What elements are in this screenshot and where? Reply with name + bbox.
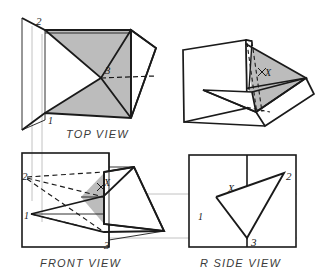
r-side-view-caption: R SIDE VIEW — [200, 257, 281, 269]
front-view-point-label-x: X — [103, 177, 111, 188]
front-view-point-label-3: 3 — [103, 239, 110, 251]
front-view-point-label-2: 2 — [22, 170, 28, 182]
r-side-view-point-label-x: X — [227, 183, 235, 194]
r-side-view: X 2 1 3 R SIDE VIEW — [189, 155, 296, 269]
front-view-right-wedge — [104, 167, 164, 231]
orthographic-projection-drawing: 2 3 1 TOP VIEW — [0, 0, 319, 279]
front-view: 2 X 1 3 FRONT VIEW — [22, 153, 164, 269]
top-view-point-label-3: 3 — [104, 64, 111, 76]
drawing-page: 2 3 1 TOP VIEW — [0, 0, 319, 279]
r-side-view-point-label-2: 2 — [286, 170, 292, 182]
front-view-point-label-1: 1 — [24, 210, 29, 221]
top-view-right-wedge — [131, 30, 156, 118]
r-side-view-point-label-1: 1 — [198, 211, 203, 222]
pictorial-back-panel — [183, 40, 247, 122]
top-view-point-label-1: 1 — [48, 115, 53, 126]
pictorial-point-label-x: X — [264, 67, 272, 78]
front-view-caption: FRONT VIEW — [40, 257, 121, 269]
pictorial-view: X — [183, 40, 314, 126]
top-view-caption: TOP VIEW — [66, 128, 129, 140]
r-side-view-point-label-3: 3 — [250, 236, 257, 248]
top-view-point-label-2: 2 — [36, 15, 42, 27]
